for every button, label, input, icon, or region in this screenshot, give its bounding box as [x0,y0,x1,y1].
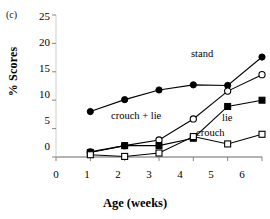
data-point-open-square [87,152,93,158]
plot-canvas [0,0,270,219]
data-point-open-square [190,134,196,140]
series-line [90,75,262,152]
data-point-open-square [156,150,162,156]
series-crouch [87,131,265,159]
series-line [90,57,262,112]
series-stand [87,54,265,115]
data-point-filled-circle [87,108,93,114]
data-point-open-circle [225,88,231,94]
data-point-open-circle [156,137,162,143]
data-point-filled-square [225,103,231,109]
data-point-open-circle [190,116,196,122]
chart-figure: (c) % Scores Age (weeks) 25 20 15 10 5 0… [0,0,270,219]
data-point-open-square [122,153,128,159]
data-point-open-circle [259,72,265,78]
data-point-filled-square [259,97,265,103]
data-point-filled-square [122,143,128,149]
data-point-filled-circle [122,97,128,103]
series-layer [87,54,265,160]
series-lie [87,97,265,155]
data-point-filled-circle [156,87,162,93]
data-point-filled-circle [190,82,196,88]
data-point-filled-circle [259,54,265,60]
data-point-filled-square [156,143,162,149]
series-line [90,134,262,156]
data-point-open-square [225,141,231,147]
data-point-open-square [259,131,265,137]
